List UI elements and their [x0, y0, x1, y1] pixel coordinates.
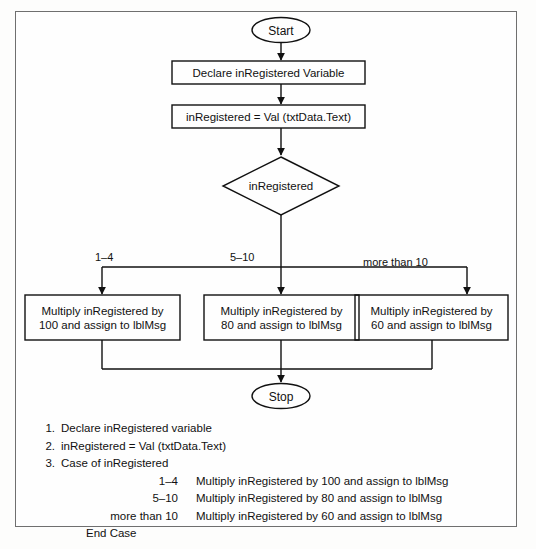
- pseudocode-step-number: 2.: [38, 438, 61, 456]
- pseudocode-step-text: Declare inRegistered variable: [61, 420, 498, 438]
- pseudocode-case-row: 5–10 Multiply inRegistered by 80 and ass…: [38, 490, 498, 508]
- pseudocode-case-row: more than 10 Multiply inRegistered by 60…: [38, 508, 498, 526]
- pseudocode-case-value: Multiply inRegistered by 100 and assign …: [196, 473, 498, 491]
- pseudocode-case-key: 1–4: [38, 473, 196, 491]
- branch-label-1: 1–4: [95, 251, 113, 264]
- pseudocode-block: 1. Declare inRegistered variable 2. inRe…: [38, 420, 498, 543]
- pseudocode-step: 1. Declare inRegistered variable: [38, 420, 498, 438]
- start-terminator-shape: [252, 18, 310, 43]
- pseudocode-case-key: 5–10: [38, 490, 196, 508]
- flowchart-page: Start Declare inRegistered Variable inRe…: [0, 0, 536, 549]
- pseudocode-case-row: 1–4 Multiply inRegistered by 100 and ass…: [38, 473, 498, 491]
- branch-3-process-shape: [355, 295, 508, 340]
- pseudocode-case-key: more than 10: [38, 508, 196, 526]
- branch-1-process-shape: [25, 295, 180, 340]
- pseudocode-case-value: Multiply inRegistered by 60 and assign t…: [196, 508, 498, 526]
- pseudocode-step: 2. inRegistered = Val (txtData.Text): [38, 438, 498, 456]
- branch-label-3: more than 10: [363, 256, 428, 269]
- pseudocode-step-text: inRegistered = Val (txtData.Text): [61, 438, 498, 456]
- pseudocode-step-number: 1.: [38, 420, 61, 438]
- decision-diamond-shape: [223, 157, 339, 215]
- declare-process-shape: [172, 61, 365, 84]
- pseudocode-step: 3. Case of inRegistered: [38, 455, 498, 473]
- pseudocode-step-text: Case of inRegistered: [61, 455, 498, 473]
- branch-2-process-shape: [204, 295, 359, 340]
- pseudocode-step-number: 3.: [38, 455, 61, 473]
- branch-label-2: 5–10: [230, 251, 254, 264]
- pseudocode-end-case: End Case: [38, 525, 498, 543]
- pseudocode-case-value: Multiply inRegistered by 80 and assign t…: [196, 490, 498, 508]
- assign-process-shape: [172, 105, 365, 128]
- stop-terminator-shape: [252, 384, 310, 409]
